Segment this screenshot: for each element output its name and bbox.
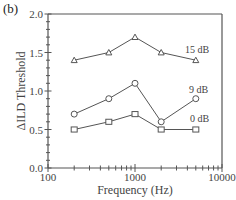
series-15-db (71, 34, 199, 63)
square-marker (158, 127, 164, 132)
triangle-marker (132, 34, 138, 39)
square-marker (71, 127, 77, 132)
series-group (71, 34, 199, 132)
circle-marker (193, 96, 199, 102)
circle-marker (71, 111, 77, 117)
series-annotation: 0 dB (190, 113, 210, 124)
x-tick-label: 1000 (124, 171, 147, 183)
y-tick-label: 2.0 (29, 8, 43, 20)
y-tick-label: 0.5 (29, 124, 43, 136)
y-tick-label: 1.5 (29, 47, 43, 59)
x-axis-label: Frequency (Hz) (97, 183, 173, 197)
square-marker (132, 112, 138, 117)
y-tick-label: 1.0 (29, 85, 43, 97)
square-marker (106, 119, 112, 124)
y-axis-label: ΔILD Threshold (14, 51, 28, 130)
circle-marker (132, 80, 138, 86)
square-marker (193, 127, 199, 132)
series-9-db (71, 80, 199, 125)
x-tick-label: 100 (40, 171, 57, 183)
series-0-db (71, 112, 199, 133)
series-annotation: 9 dB (189, 84, 209, 95)
circle-marker (158, 119, 164, 125)
triangle-marker (106, 50, 112, 55)
series-annotation: 15 dB (185, 44, 210, 55)
series-line (74, 37, 196, 60)
triangle-marker (158, 50, 164, 55)
x-tick-label: 10000 (208, 171, 236, 183)
line-chart: 0.00.51.01.52.0100100010000Frequency (Hz… (0, 0, 236, 200)
circle-marker (106, 96, 112, 102)
